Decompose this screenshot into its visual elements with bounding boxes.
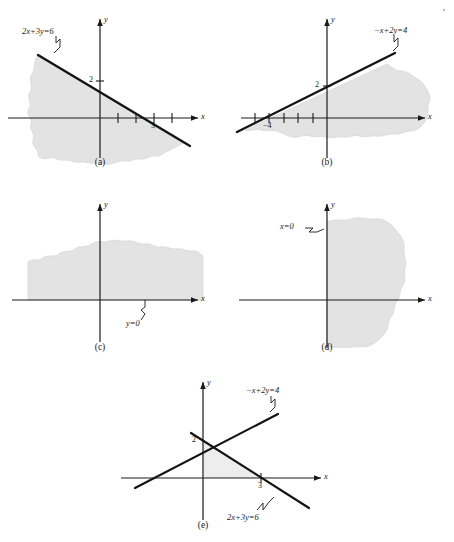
x-intercept-label-b: −4: [263, 121, 272, 130]
y-axis-arrow-a: [97, 19, 103, 26]
equation-label-b: −x+2y=4: [374, 25, 407, 35]
y-intercept-label-b: 2: [315, 80, 319, 89]
panel-c: y=0 x y (c): [0, 190, 227, 370]
y-axis-name-d: y: [331, 199, 335, 209]
equation-label-c: y=0: [126, 318, 140, 328]
x-axis-arrow-d: [418, 297, 425, 303]
equation-label-lower-e: 2x+3y=6: [227, 512, 259, 522]
x-axis-name-b: x: [428, 111, 432, 121]
y-axis-name-b: y: [331, 14, 335, 24]
x-intercept-label-e: 3: [258, 481, 262, 490]
x-axis-arrow-a: [191, 115, 198, 121]
panel-caption-b: (b): [305, 157, 349, 167]
panel-caption-d: (d): [305, 342, 349, 352]
x-axis-arrow-e: [314, 475, 321, 481]
y-axis-arrow-d: [324, 204, 330, 211]
panel-caption-c: (c): [78, 342, 122, 352]
x-axis-name-d: x: [428, 293, 432, 303]
leader-squiggle-upper-e: [270, 396, 275, 412]
panel-d: x=0 x y (d): [227, 190, 454, 370]
leader-squiggle-b: [393, 35, 398, 51]
panel-a: 2x+3y=6 2 3 x y (a): [0, 0, 227, 190]
panel-b: −x+2y=4 2 −4 x y (b): [227, 0, 454, 190]
y-intercept-label-a: 2: [89, 75, 93, 84]
x-intercept-label-a: 3: [151, 121, 155, 130]
y-axis-arrow-e: [200, 382, 206, 389]
x-axis-name-e: x: [324, 471, 328, 481]
y-axis-arrow-c: [97, 204, 103, 211]
figure-container: 2x+3y=6 2 3 x y (a): [0, 0, 454, 542]
y-axis-name-e: y: [207, 377, 211, 387]
panel-caption-a: (a): [78, 157, 122, 167]
leader-squiggle-lower-e: [257, 497, 274, 510]
equation-label-upper-e: −x+2y=4: [246, 385, 279, 395]
y-axis-name-a: y: [104, 14, 108, 24]
shaded-region-c: [28, 240, 203, 300]
panel-e: −x+2y=4 2x+3y=6 2 3 x y (e): [113, 370, 363, 542]
shaded-region-b: [245, 64, 430, 138]
shaded-region-d: [327, 218, 406, 348]
y-axis-name-c: y: [104, 199, 108, 209]
leader-squiggle-d: [305, 228, 324, 232]
panel-caption-e: (e): [181, 520, 225, 530]
y-intercept-label-e: 2: [192, 435, 196, 444]
shaded-region-a: [28, 55, 183, 164]
y-axis-arrow-b: [324, 19, 330, 26]
x-axis-name-c: x: [201, 293, 205, 303]
equation-label-d: x=0: [280, 221, 294, 231]
leader-squiggle-c: [141, 300, 145, 320]
page-speck: [443, 9, 445, 11]
x-axis-name-a: x: [201, 111, 205, 121]
equation-label-a: 2x+3y=6: [22, 26, 54, 36]
leader-squiggle-a: [54, 36, 60, 53]
